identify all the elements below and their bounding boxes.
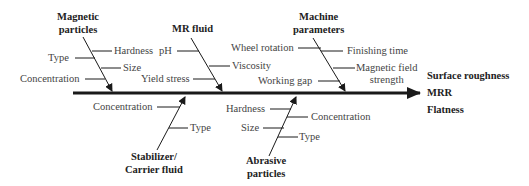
- category-abrasive: Abrasive particles: [246, 154, 286, 180]
- cause-hardness: Hardness: [114, 45, 153, 57]
- cause-yield-stress: Yield stress: [141, 73, 190, 85]
- effect-mrr: MRR: [427, 87, 452, 99]
- category-magnetic-particles: Magnetic particles: [57, 10, 99, 36]
- cause-type: Type: [48, 52, 69, 64]
- category-line: parameters: [293, 23, 344, 36]
- category-line: Stabilizer/: [125, 150, 183, 163]
- cause-concentration: Concentration: [93, 101, 152, 113]
- effect-flatness: Flatness: [427, 104, 464, 116]
- cause-wheel-rotation: Wheel rotation: [231, 42, 294, 54]
- cause-ph: pH: [159, 45, 172, 57]
- bone-machine-parameters: [313, 38, 345, 91]
- cause-hardness: Hardness: [226, 103, 265, 115]
- cause-size: Size: [241, 122, 259, 134]
- category-machine-parameters: Machine parameters: [293, 10, 344, 36]
- cause-finishing-time: Finishing time: [347, 45, 408, 57]
- bone-magnetic-particles: [83, 37, 112, 91]
- cause-viscosity: Viscosity: [232, 60, 271, 72]
- bone-abrasive: [269, 97, 296, 156]
- category-line: particles: [57, 23, 99, 36]
- cause-line: strength: [356, 74, 418, 86]
- category-line: MR fluid: [172, 22, 213, 35]
- category-line: Carrier fluid: [125, 163, 183, 176]
- cause-concentration: Concentration: [20, 73, 79, 85]
- bone-stabilizer: [157, 97, 185, 150]
- effect-surface-roughness: Surface roughness: [427, 70, 509, 82]
- cause-working-gap: Working gap: [258, 75, 312, 87]
- cause-line: Magnetic field: [356, 62, 418, 74]
- category-stabilizer: Stabilizer/ Carrier fluid: [125, 150, 183, 176]
- category-mr-fluid: MR fluid: [172, 22, 213, 35]
- cause-size: Size: [123, 62, 141, 74]
- cause-type: Type: [190, 122, 211, 134]
- bone-mr-fluid: [191, 38, 222, 91]
- category-line: Magnetic: [57, 10, 99, 23]
- category-line: Abrasive: [246, 154, 286, 167]
- cause-concentration: Concentration: [311, 111, 370, 123]
- cause-magnetic-field-strength: Magnetic field strength: [356, 62, 418, 86]
- cause-type: Type: [299, 131, 320, 143]
- category-line: Machine: [293, 10, 344, 23]
- category-line: particles: [246, 167, 286, 180]
